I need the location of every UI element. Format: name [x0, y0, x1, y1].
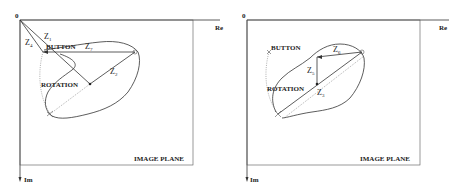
- rotation-center-dot: [316, 83, 319, 86]
- rotation-label: ROTATION: [267, 85, 304, 93]
- imag-axis-label: Im: [250, 176, 259, 184]
- real-axis-label: Re: [439, 24, 447, 32]
- origin-label: 0: [15, 12, 19, 20]
- imag-arrow-icon: [19, 177, 22, 182]
- z2-label: Z2: [110, 67, 118, 77]
- vector-z3: [278, 52, 362, 114]
- imag-axis-label: Im: [24, 176, 33, 184]
- button-label: BUTTON: [46, 43, 75, 51]
- rotation-center-dot: [89, 83, 92, 86]
- image-plane-label: IMAGE PLANE: [360, 155, 410, 163]
- z4-label: Z4: [25, 38, 33, 48]
- z5-label: Z5: [307, 66, 315, 76]
- object-outline: [273, 44, 365, 118]
- right-panel: 0 Re Im IMAGE PLANE BUTTON ROTATION Z6 Z…: [242, 12, 449, 184]
- imag-arrow-icon: [246, 177, 249, 182]
- rotation-arc: [266, 52, 278, 114]
- z3-label: Z3: [317, 88, 325, 98]
- z7-label: Z7: [85, 42, 93, 52]
- z6-arrow-icon: [317, 55, 322, 59]
- real-axis-label: Re: [215, 24, 223, 32]
- z6-label: Z6: [333, 45, 341, 55]
- left-panel: 0 Re Im IMAGE PLANE BUTTON ROTATION Z1 Z…: [15, 12, 223, 184]
- origin-label: 0: [242, 12, 246, 20]
- z1-label: Z1: [44, 32, 52, 42]
- object-outline: [44, 41, 140, 118]
- diagram-canvas: 0 Re Im IMAGE PLANE BUTTON ROTATION Z1 Z…: [0, 0, 459, 194]
- rotation-label: ROTATION: [41, 81, 78, 89]
- button-label: BUTTON: [271, 44, 300, 52]
- image-plane-label: IMAGE PLANE: [134, 155, 184, 163]
- cross-marker-icon: [275, 111, 281, 117]
